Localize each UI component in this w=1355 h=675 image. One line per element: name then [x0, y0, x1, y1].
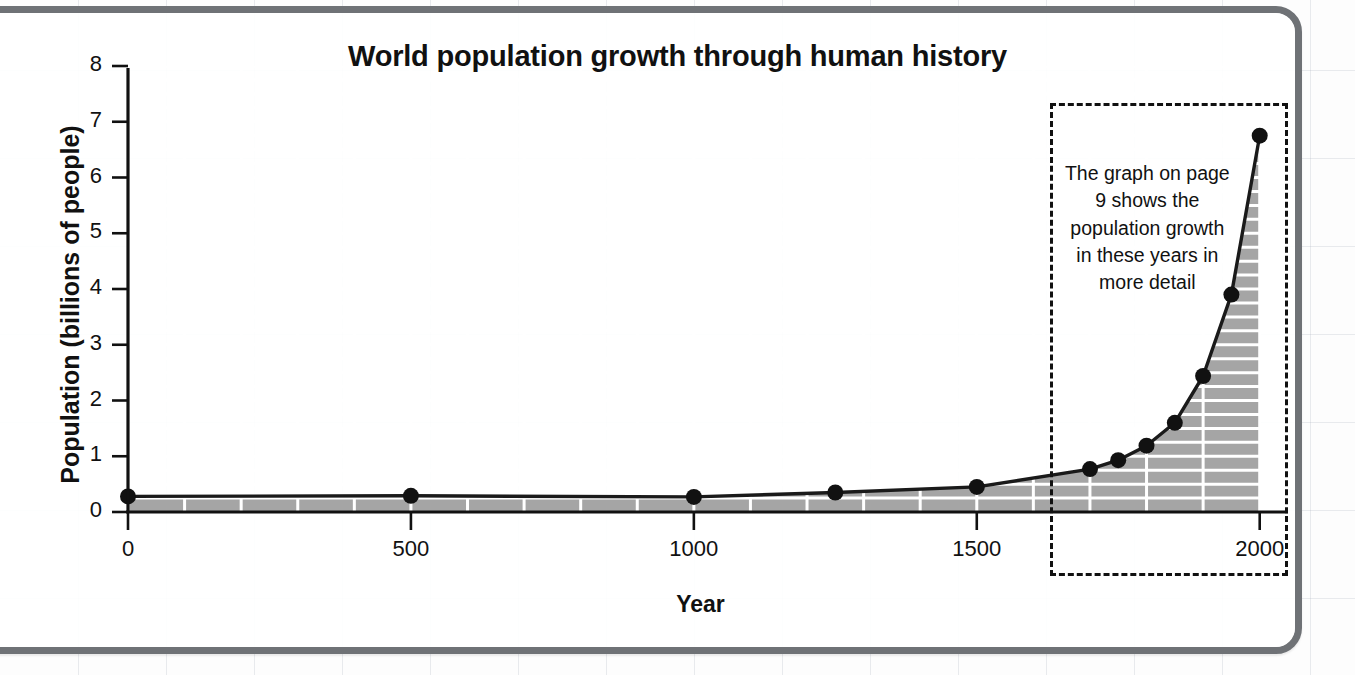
y-tick-label: 8 [68, 51, 102, 77]
page-background: World population growth through human hi… [0, 0, 1355, 675]
callout-text: The graph on page 9 shows the population… [1062, 160, 1232, 296]
x-axis-title: Year [128, 591, 1273, 618]
data-point [827, 485, 843, 501]
y-tick-label: 0 [68, 497, 102, 523]
x-tick-label: 1500 [917, 536, 1037, 562]
y-tick-label: 1 [68, 441, 102, 467]
y-tick-label: 2 [68, 386, 102, 412]
y-tick-label: 3 [68, 330, 102, 356]
data-point [403, 488, 419, 504]
x-tick-label: 0 [68, 536, 188, 562]
x-tick-label: 1000 [634, 536, 754, 562]
population-chart: World population growth through human hi… [0, 0, 1355, 675]
x-tick-label: 500 [351, 536, 471, 562]
data-point [686, 489, 702, 505]
chart-title: World population growth through human hi… [0, 40, 1355, 73]
data-point [969, 479, 985, 495]
y-tick-label: 6 [68, 163, 102, 189]
y-axis-ticks [112, 66, 128, 512]
y-tick-label: 4 [68, 274, 102, 300]
y-tick-label: 7 [68, 107, 102, 133]
y-tick-label: 5 [68, 218, 102, 244]
